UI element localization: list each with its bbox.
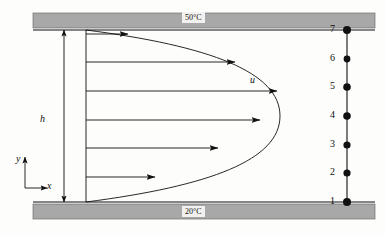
- node-label-4: 4: [321, 109, 335, 120]
- node-label-5: 5: [321, 80, 335, 91]
- y-axis-label: y: [16, 153, 20, 164]
- top-plate-temperature-label: 50°C: [182, 12, 205, 23]
- node-dot-5: [343, 83, 351, 91]
- velocity-profile-curve: [86, 30, 280, 202]
- bottom-plate-temperature-label: 20°C: [182, 206, 205, 217]
- node-label-6: 6: [321, 52, 335, 63]
- node-label-7: 7: [321, 23, 335, 34]
- node-dot-1: [343, 198, 351, 206]
- node-label-2: 2: [321, 166, 335, 177]
- coordinate-axes: [25, 157, 47, 188]
- node-dot-7: [343, 26, 351, 34]
- node-label-3: 3: [321, 138, 335, 149]
- x-axis-label: x: [47, 180, 51, 191]
- node-dot-4: [343, 112, 351, 120]
- velocity-arrow-group: [86, 34, 277, 177]
- node-label-1: 1: [321, 195, 335, 206]
- velocity-symbol-label: u: [250, 74, 255, 85]
- node-dot-6: [344, 56, 351, 63]
- node-dot-3: [343, 141, 350, 148]
- velocity-profile-figure: 50°C 20°C h u x y 1234567: [0, 0, 386, 236]
- channel-height-label: h: [40, 113, 45, 124]
- node-dot-2: [343, 169, 350, 176]
